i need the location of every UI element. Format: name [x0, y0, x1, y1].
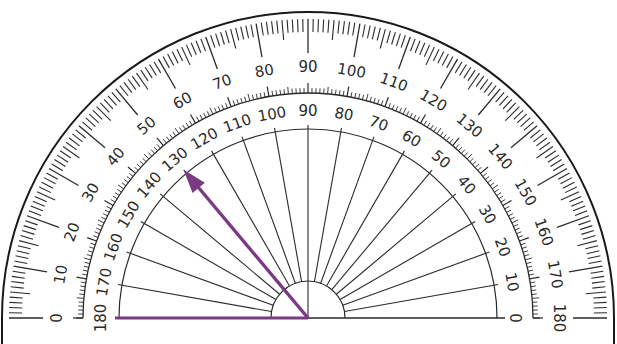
inner-tick	[157, 144, 160, 148]
inner-tick	[335, 90, 336, 95]
inner-tick	[137, 164, 141, 167]
inner-tick	[362, 95, 363, 100]
inner-tick	[214, 108, 216, 113]
outer-tick	[476, 76, 484, 87]
outer-tick	[517, 114, 527, 123]
inner-tick	[456, 144, 459, 148]
inner-tick	[437, 128, 441, 134]
inner-tick	[447, 137, 450, 141]
outer-tick	[590, 271, 603, 273]
outer-tick	[420, 43, 425, 55]
inner-tick	[524, 255, 529, 256]
inner-tick	[186, 123, 189, 127]
outer-tick	[29, 211, 41, 216]
inner-scale-label: 60	[399, 126, 425, 151]
outer-scale-label: 0	[48, 313, 66, 323]
outer-tick	[468, 70, 475, 81]
inner-tick	[127, 176, 131, 179]
outer-scale-label: 30	[78, 180, 103, 206]
inner-tick	[175, 128, 179, 134]
outer-tick	[272, 21, 274, 34]
outer-tick	[537, 147, 553, 158]
outer-tick	[410, 39, 415, 51]
outer-tick	[42, 182, 54, 188]
inner-tick	[410, 113, 412, 117]
inner-scale-label: 170	[93, 266, 116, 297]
outer-tick	[206, 37, 218, 69]
outer-tick	[132, 76, 140, 87]
spoke-line	[343, 252, 490, 305]
inner-scale-label: 0	[506, 313, 524, 323]
inner-tick	[381, 101, 383, 106]
outer-scale-label: 80	[253, 60, 275, 81]
outer-tick	[72, 134, 82, 142]
inner-tick	[81, 282, 86, 283]
inner-tick	[256, 94, 257, 99]
inner-tick	[523, 251, 528, 252]
outer-tick	[282, 20, 284, 40]
outer-tick	[557, 216, 589, 228]
outer-tick	[236, 28, 239, 41]
outer-tick	[586, 292, 606, 294]
outer-tick	[565, 187, 577, 193]
outer-tick	[447, 56, 453, 67]
outer-scale-label: 70	[210, 70, 234, 93]
inner-tick	[366, 94, 368, 101]
outer-tick	[221, 32, 225, 44]
outer-tick	[539, 142, 550, 150]
outer-tick	[460, 64, 467, 75]
outer-tick	[89, 114, 99, 123]
outer-tick	[137, 73, 148, 89]
outer-tick	[480, 79, 488, 89]
inner-tick	[173, 132, 176, 136]
outer-tick	[11, 282, 24, 284]
outer-scale-label: 60	[170, 88, 196, 113]
spoke-line	[321, 137, 374, 284]
outer-scale-label: 20	[60, 220, 83, 244]
inner-tick	[200, 115, 202, 119]
spoke-line	[314, 128, 341, 282]
inner-tick	[403, 108, 406, 114]
inner-tick	[79, 294, 84, 295]
outer-tick	[387, 31, 391, 43]
inner-tick	[518, 236, 523, 238]
inner-tick	[501, 200, 505, 203]
outer-scale-label: 90	[298, 58, 317, 76]
outer-tick	[177, 49, 183, 61]
spoke-line	[141, 222, 276, 300]
outer-tick	[25, 221, 37, 225]
inner-tick	[170, 134, 173, 138]
outer-scale-label: 130	[453, 110, 487, 142]
outer-tick	[19, 241, 38, 246]
outer-tick	[54, 160, 65, 167]
inner-tick	[260, 93, 261, 98]
outer-tick	[521, 118, 531, 127]
outer-tick	[533, 134, 543, 142]
inner-tick	[104, 201, 113, 206]
outer-tick	[591, 276, 604, 278]
inner-tick	[443, 134, 446, 138]
outer-tick	[545, 151, 556, 158]
inner-tick	[359, 94, 360, 99]
outer-tick	[11, 287, 24, 288]
outer-tick	[563, 182, 575, 188]
inner-tick	[276, 90, 277, 95]
inner-tick	[339, 90, 340, 95]
outer-tick	[587, 251, 600, 254]
outer-tick	[455, 62, 462, 73]
outer-tick	[594, 302, 607, 303]
outer-tick	[582, 231, 594, 235]
outer-tick	[231, 29, 236, 48]
inner-scale-label: 140	[133, 168, 165, 202]
inner-tick	[154, 147, 157, 151]
outer-tick	[573, 206, 585, 211]
inner-tick	[508, 214, 512, 216]
inner-tick	[143, 158, 147, 161]
inner-tick	[179, 127, 182, 131]
inner-tick	[288, 87, 289, 94]
inner-tick	[343, 91, 344, 96]
outer-tick	[511, 126, 537, 148]
outer-tick	[150, 64, 157, 75]
outer-scale-label: 150	[510, 176, 540, 210]
inner-tick	[374, 98, 375, 103]
